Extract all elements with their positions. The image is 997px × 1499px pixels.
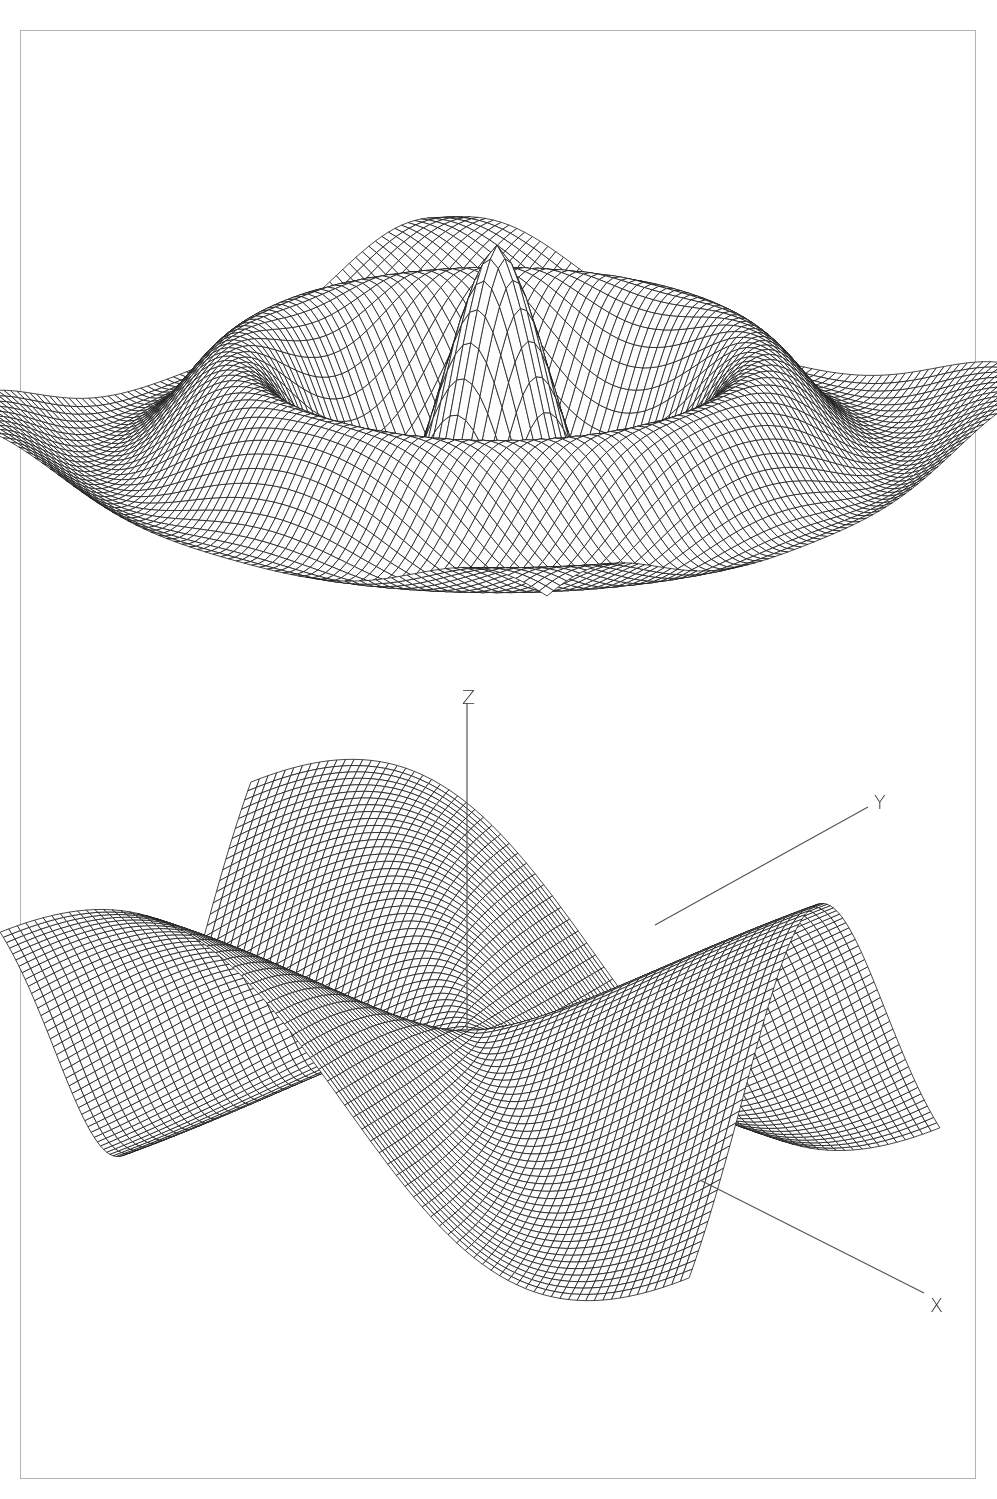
x-axis-label: X [930,1296,943,1315]
wireframe-plots-canvas [0,0,997,1499]
z-axis-label: Z [462,688,475,707]
y-axis-label: Y [874,793,886,812]
